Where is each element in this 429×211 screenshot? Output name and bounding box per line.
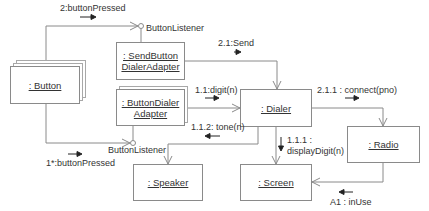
link-dialer-to-speaker [168,127,258,164]
screen-object[interactable]: : Screen [240,164,312,201]
message-a1-in-use: A1 : inUse [330,197,372,207]
button-listener-label-top: ButtonListener [146,23,204,33]
send-button-dialer-adapter-object[interactable]: : SendButton DialerAdapter [116,42,185,80]
button-adapter-label-line1: : ButtonDialer [122,97,180,108]
lollipop-top [139,24,144,29]
link-dialer-to-radio [312,108,383,126]
link-radio-to-screen [312,163,383,182]
message-1-1-1-display-line2: displayDigit(n) [287,146,344,156]
radio-object[interactable]: : Radio [347,126,420,163]
button-adapter-label-line2: Adapter [134,108,167,119]
dialer-object[interactable]: : Dialer [240,89,312,127]
button-object[interactable]: : Button [10,66,80,104]
speaker-object[interactable]: : Speaker [133,164,203,201]
button-dialer-adapter-object[interactable]: : ButtonDialer Adapter [116,89,185,126]
speaker-label: : Speaker [148,177,189,188]
message-1-1-2-tone: 1.1.2: tone(n) [191,122,245,132]
dialer-label: : Dialer [261,103,291,114]
message-1-1-digit: 1.1:digit(n) [195,85,238,95]
connectors [0,0,429,211]
screen-label: : Screen [258,177,293,188]
send-adapter-label-line1: : SendButton [123,50,178,61]
send-adapter-label-line2: DialerAdapter [121,61,179,72]
message-2-1-send: 2.1:Send [218,38,254,48]
message-1-1-1-display-line1: 1.1.1 : [287,135,312,145]
radio-label: : Radio [368,139,398,150]
button-object-label: : Button [29,80,62,91]
message-2-1-1-connect: 2.1.1 : connect(pno) [317,85,397,95]
collaboration-diagram: : Button : SendButton DialerAdapter : Bu… [0,0,429,211]
message-1-star-button-pressed: 1*:buttonPressed [46,158,115,168]
message-2-button-pressed: 2:buttonPressed [60,3,126,13]
button-listener-label-bottom: ButtonListener [108,145,166,155]
